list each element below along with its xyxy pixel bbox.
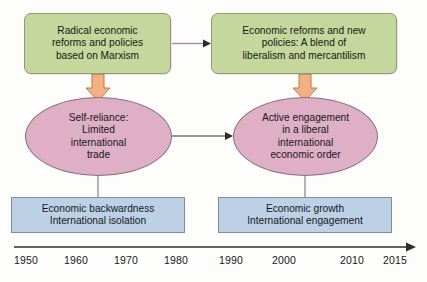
axis-tick-2000: 2000 xyxy=(258,254,310,266)
policy-box-liberalism-label: Economic reforms and new policies: A ble… xyxy=(218,25,390,62)
axis-tick-1970: 1970 xyxy=(100,254,152,266)
outcome-box-growth-label: Economic growth International engagement xyxy=(224,203,386,228)
policy-box-marxism[interactable]: Radical economic reforms and policies ba… xyxy=(24,13,171,74)
policy-box-marxism-label: Radical economic reforms and policies ba… xyxy=(31,25,164,62)
axis-tick-1950: 1950 xyxy=(0,254,52,266)
stance-ellipse-self-reliance[interactable]: Self-reliance: Limited international tra… xyxy=(25,97,172,176)
axis-tick-1980: 1980 xyxy=(150,254,202,266)
stance-ellipse-self-reliance-label: Self-reliance: Limited international tra… xyxy=(40,112,157,162)
outcome-box-backwardness[interactable]: Economic backwardness International isol… xyxy=(11,197,185,233)
axis-tick-2015: 2015 xyxy=(369,254,421,266)
axis-tick-1990: 1990 xyxy=(205,254,257,266)
diagram-canvas: Radical economic reforms and policies ba… xyxy=(0,0,427,282)
outcome-box-growth[interactable]: Economic growth International engagement xyxy=(218,197,392,233)
year-axis xyxy=(14,243,416,252)
stance-ellipse-active-engagement[interactable]: Active engagement in a liberal internati… xyxy=(233,97,378,176)
arrow-policy-to-policy xyxy=(172,40,211,48)
arrow-stance-to-stance xyxy=(172,132,233,140)
stance-ellipse-active-engagement-label: Active engagement in a liberal internati… xyxy=(248,112,363,162)
axis-tick-1960: 1960 xyxy=(50,254,102,266)
policy-box-liberalism[interactable]: Economic reforms and new policies: A ble… xyxy=(211,13,397,74)
outcome-box-backwardness-label: Economic backwardness International isol… xyxy=(17,203,179,228)
